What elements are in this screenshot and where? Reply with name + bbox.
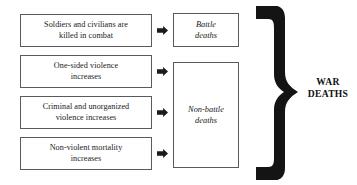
war-deaths-total-label: WAR DEATHS [300,76,356,100]
cause-box-label: Non-violent mortalityincreases [47,143,126,164]
cause-box-one-sided-violence: One-sided violenceincreases [20,55,152,88]
total-label-line-1: WAR [300,76,356,88]
cause-box-criminal-unorganized-violence: Criminal and unorganizedviolence increas… [20,96,152,129]
category-box-label: Battledeaths [195,19,217,41]
right-arrow-icon [157,67,168,76]
war-deaths-diagram: Soldiers and civilians arekilled in comb… [0,0,357,185]
cause-box-non-violent-mortality: Non-violent mortalityincreases [20,137,152,170]
right-arrow-icon [157,26,168,35]
category-box-battle-deaths: Battledeaths [173,13,239,47]
right-arrow-icon [157,108,168,117]
total-label-line-2: DEATHS [300,88,356,100]
cause-box-label: Soldiers and civilians arekilled in comb… [41,20,131,41]
right-curly-brace-icon [254,6,300,180]
category-box-non-battle-deaths: Non-battledeaths [173,62,239,168]
right-arrow-icon [157,149,168,158]
cause-box-soldiers-civilians-killed: Soldiers and civilians arekilled in comb… [20,14,152,47]
category-box-label: Non-battledeaths [188,104,224,126]
cause-box-label: One-sided violenceincreases [51,61,121,82]
cause-box-label: Criminal and unorganizedviolence increas… [40,102,133,123]
